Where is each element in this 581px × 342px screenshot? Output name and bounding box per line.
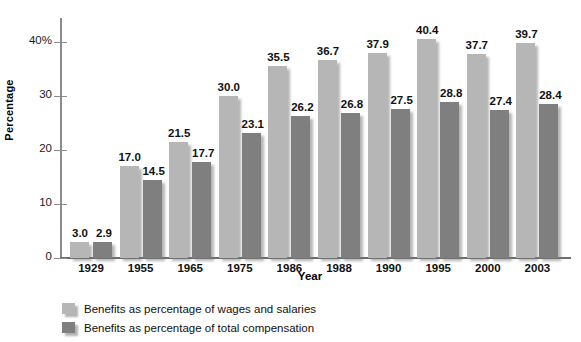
bar [268, 66, 287, 258]
bar-group: 37.727.4 [467, 20, 509, 258]
y-axis-tick-label: 30 [10, 88, 52, 100]
bar [440, 102, 459, 258]
legend-item: Benefits as percentage of total compensa… [62, 318, 316, 337]
bar [417, 39, 436, 258]
bar-value-label: 17.0 [113, 151, 147, 163]
y-axis-tick [54, 258, 67, 259]
x-axis-tick-label: 2000 [463, 262, 513, 274]
bar-value-label: 36.7 [311, 45, 345, 57]
bar [490, 110, 509, 258]
bar [516, 43, 535, 258]
bar [70, 242, 89, 258]
x-axis-tick-label: 1975 [215, 262, 265, 274]
bar [467, 54, 486, 258]
bar [368, 53, 387, 258]
legend-swatch-compensation-icon [62, 322, 75, 333]
bar-value-label: 2.9 [87, 227, 121, 239]
bar-group: 37.927.5 [368, 20, 410, 258]
bar-value-label: 26.2 [285, 101, 319, 113]
bar-value-label: 17.7 [186, 147, 220, 159]
chart-legend: Benefits as percentage of wages and sala… [62, 299, 316, 337]
bar-value-label: 26.8 [335, 98, 369, 110]
bar-value-label: 21.5 [162, 127, 196, 139]
x-axis-tick-label: 1986 [264, 262, 314, 274]
bar-value-label: 28.4 [533, 89, 567, 101]
bar [341, 113, 360, 258]
bar [120, 166, 139, 258]
legend-swatch-wages-icon [62, 303, 75, 314]
bar-value-label: 40.4 [410, 24, 444, 36]
x-axis-tick-label: 1995 [413, 262, 463, 274]
x-axis-tick-label: 1955 [116, 262, 166, 274]
bar-value-label: 27.4 [484, 95, 518, 107]
bar-value-label: 39.7 [509, 28, 543, 40]
x-axis-tick-label: 1988 [314, 262, 364, 274]
bar [143, 180, 162, 258]
bar [318, 60, 337, 259]
bar-value-label: 35.5 [261, 51, 295, 63]
bar-group: 39.728.4 [516, 20, 558, 258]
bar-group: 17.014.5 [120, 20, 162, 258]
bar [539, 104, 558, 258]
bar-group: 35.526.2 [268, 20, 310, 258]
bar-value-label: 37.9 [361, 38, 395, 50]
bar-group: 21.517.7 [169, 20, 211, 258]
bar-chart: Percentage Year 010203040% 3.02.917.014.… [0, 0, 581, 342]
bar-group: 3.02.9 [70, 20, 112, 258]
y-axis-title: Percentage [3, 70, 15, 150]
x-axis-tick-label: 1990 [364, 262, 414, 274]
bar [291, 116, 310, 258]
bar [391, 109, 410, 258]
x-axis-tick-label: 2003 [512, 262, 562, 274]
bar-group: 40.428.8 [417, 20, 459, 258]
x-axis-tick-label: 1965 [165, 262, 215, 274]
legend-item: Benefits as percentage of wages and sala… [62, 299, 316, 318]
bar-value-label: 14.5 [137, 165, 171, 177]
bar-value-label: 28.8 [434, 87, 468, 99]
bar-value-label: 23.1 [236, 118, 270, 130]
bar-value-label: 30.0 [212, 81, 246, 93]
y-axis-tick-label: 20 [10, 142, 52, 154]
bar-group: 30.023.1 [219, 20, 261, 258]
bar-value-label: 37.7 [460, 39, 494, 51]
plot-area: 3.02.917.014.521.517.730.023.135.526.236… [60, 20, 571, 258]
bar-group: 36.726.8 [318, 20, 360, 258]
y-axis-tick-label: 40% [10, 34, 52, 46]
bar [192, 162, 211, 258]
y-axis-tick-label: 0 [10, 250, 52, 262]
legend-label: Benefits as percentage of wages and sala… [84, 303, 316, 315]
bar-value-label: 27.5 [385, 94, 419, 106]
bar [242, 133, 261, 258]
legend-label: Benefits as percentage of total compensa… [84, 322, 314, 334]
x-axis-tick-label: 1929 [66, 262, 116, 274]
bar [93, 242, 112, 258]
y-axis-tick-label: 10 [10, 196, 52, 208]
